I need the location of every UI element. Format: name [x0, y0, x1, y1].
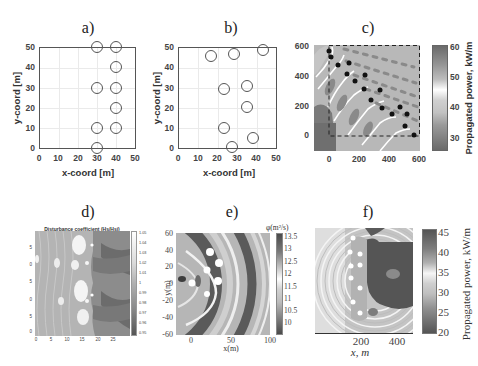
colorbar-tick: 11.5	[284, 282, 297, 291]
y-tick: -40	[162, 313, 173, 322]
panel-f-heatmap	[315, 228, 413, 334]
colorbar-tick: 0.98	[139, 301, 146, 305]
y-tick: 600	[295, 41, 309, 51]
y-tick: 5	[29, 279, 32, 284]
device-marker	[110, 41, 122, 53]
device-marker	[91, 82, 103, 94]
x-tick: 10	[64, 337, 69, 342]
y-tick: 40	[165, 62, 174, 72]
x-axis-label: x(m)	[223, 344, 239, 353]
device-dot	[358, 252, 363, 257]
y-tick: 20	[26, 103, 35, 113]
device-dot	[351, 236, 356, 241]
device-marker	[218, 122, 230, 134]
device-marker	[110, 102, 122, 114]
device-dot	[327, 49, 332, 54]
y-axis-label: y(m)	[163, 280, 172, 296]
x-axis-label: x-coord [m]	[62, 167, 114, 178]
device-dot	[329, 55, 334, 60]
x-tick: 30	[232, 153, 241, 163]
device-marker	[110, 122, 122, 134]
y-tick: 50	[26, 42, 35, 52]
y-tick: 200	[295, 101, 309, 111]
y-tick: 0	[29, 329, 32, 334]
colorbar-tick: 12	[284, 269, 292, 278]
device-dot	[378, 88, 383, 93]
x-tick: 0	[327, 154, 332, 164]
device-dot	[204, 291, 210, 297]
panel-f-title: f)	[363, 203, 374, 221]
panel-c-heatmap	[314, 45, 420, 151]
y-tick: 5	[29, 245, 32, 250]
x-tick: 600	[412, 154, 426, 164]
x-tick: 10	[53, 153, 62, 163]
device-marker	[241, 80, 253, 92]
y-tick: 40	[26, 62, 35, 72]
x-tick: 200	[352, 154, 366, 164]
x-axis-label: x-coord [m]	[203, 167, 255, 178]
panel-f-colorbar	[422, 229, 437, 334]
device-marker	[226, 141, 238, 153]
colorbar-tick: 30	[450, 133, 459, 143]
y-tick: 40	[165, 246, 173, 255]
device-dot	[369, 98, 374, 103]
device-dot	[336, 63, 341, 68]
colorbar-tick: 1.03	[139, 251, 146, 255]
y-tick: 30	[26, 83, 35, 93]
x-tick: 0	[35, 337, 38, 342]
y-tick: 60	[165, 229, 173, 238]
colorbar-label: Propagated power, kW/m	[463, 42, 474, 155]
device-dot	[398, 105, 403, 110]
x-tick: 50	[130, 153, 139, 163]
colorbar-tick: 35	[438, 266, 449, 278]
y-tick: -20	[162, 296, 173, 305]
colorbar-tick: 40	[438, 246, 449, 258]
device-dot	[403, 124, 408, 129]
colorbar-tick: 0.95	[139, 331, 146, 335]
y-tick: 0	[30, 143, 35, 153]
y-tick: 20	[165, 262, 173, 271]
device-dot	[214, 277, 222, 285]
device-marker	[247, 132, 259, 144]
y-axis-label: y-coord [m]	[11, 72, 22, 124]
colorbar-tick: 12.5	[284, 257, 297, 266]
panel-a-plot-area	[39, 47, 136, 149]
colorbar-tick: 13.5	[284, 232, 297, 241]
colorbar-tick: 1.02	[139, 261, 146, 265]
device-dot	[206, 248, 214, 256]
device-marker	[110, 82, 122, 94]
device-dot	[405, 112, 410, 117]
panel-d-colorbar	[131, 231, 137, 336]
y-tick: 0	[29, 297, 32, 302]
colorbar-tick: 0.99	[139, 291, 146, 295]
colorbar-tick: 50	[450, 72, 459, 82]
device-dot	[345, 72, 350, 77]
colorbar-label: Propagated power, kW/m	[460, 228, 472, 340]
device-marker	[218, 83, 230, 95]
x-tick: 0	[189, 336, 193, 345]
device-dot	[347, 61, 352, 66]
device-dot	[215, 259, 223, 267]
colorbar-tick: 40	[450, 102, 459, 112]
x-tick: 400	[389, 335, 406, 347]
panel-b-plot-area	[178, 47, 277, 149]
y-tick: 30	[165, 83, 174, 93]
x-tick: 0	[176, 153, 181, 163]
colorbar-tick: 0.96	[139, 321, 146, 325]
colorbar-tick: 11	[284, 294, 291, 303]
panel-c-colorbar	[432, 45, 448, 151]
colorbar-tick: 20	[438, 326, 449, 338]
device-dot	[358, 311, 363, 316]
x-tick: 50	[271, 153, 280, 163]
x-tick: 400	[382, 154, 396, 164]
x-tick: 25	[110, 337, 115, 342]
colorbar-tick: 60	[450, 42, 459, 52]
x-tick: 20	[95, 337, 100, 342]
device-marker	[257, 44, 269, 56]
y-tick: 20	[165, 103, 174, 113]
device-dot	[412, 133, 417, 138]
colorbar-tick: 1.01	[139, 271, 146, 275]
x-tick: 15	[79, 337, 84, 342]
panel-d-title: d)	[81, 203, 94, 221]
device-dot	[351, 300, 356, 305]
